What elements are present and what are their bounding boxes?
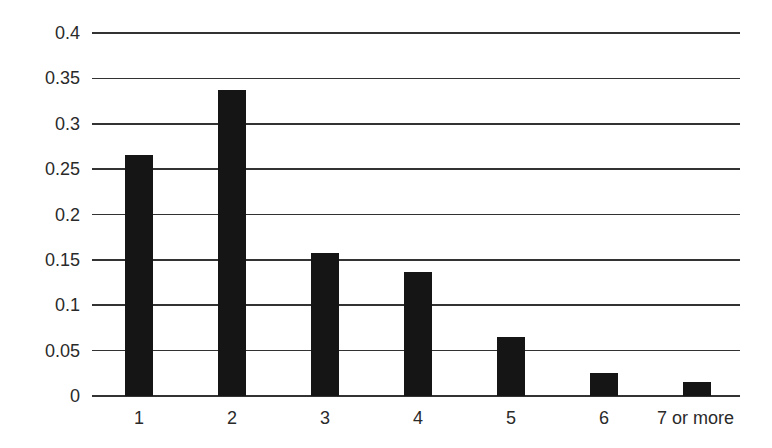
y-tick-label: 0.3 bbox=[0, 114, 80, 134]
y-tick-label: 0.4 bbox=[0, 23, 80, 43]
x-tick-label: 6 bbox=[554, 408, 654, 428]
y-tick-label: 0 bbox=[0, 386, 80, 406]
bar-1 bbox=[125, 155, 153, 396]
gridline bbox=[92, 168, 740, 170]
x-tick-label: 5 bbox=[461, 408, 561, 428]
bar-3 bbox=[311, 253, 339, 396]
bar-7-or-more bbox=[683, 382, 711, 396]
bar-chart: 00.050.10.150.20.250.30.350.4 1234567 or… bbox=[0, 0, 772, 448]
y-tick-label: 0.05 bbox=[0, 341, 80, 361]
y-tick-label: 0.25 bbox=[0, 159, 80, 179]
gridline bbox=[92, 78, 740, 80]
bar-5 bbox=[497, 337, 525, 396]
x-tick-label: 2 bbox=[182, 408, 282, 428]
gridline bbox=[92, 123, 740, 125]
gridline bbox=[92, 32, 740, 34]
y-tick-label: 0.35 bbox=[0, 68, 80, 88]
bar-6 bbox=[590, 373, 618, 396]
y-tick-label: 0.2 bbox=[0, 205, 80, 225]
x-tick-label: 4 bbox=[368, 408, 468, 428]
bar-4 bbox=[404, 272, 432, 396]
x-tick-label: 3 bbox=[275, 408, 375, 428]
bar-2 bbox=[218, 90, 246, 396]
x-tick-label: 1 bbox=[89, 408, 189, 428]
gridline bbox=[92, 259, 740, 261]
gridline bbox=[92, 214, 740, 216]
y-tick-label: 0.1 bbox=[0, 295, 80, 315]
x-tick-label: 7 or more bbox=[657, 408, 757, 428]
y-tick-label: 0.15 bbox=[0, 250, 80, 270]
